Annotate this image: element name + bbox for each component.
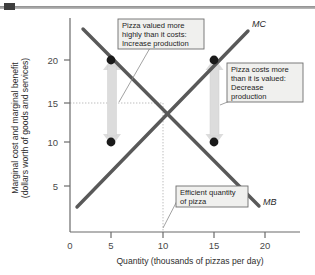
- x-axis-title: Quantity (thousands of pizzas per day): [116, 256, 263, 266]
- callout-decrease-line3: Decrease: [231, 83, 264, 92]
- ytick-label-5: 5: [53, 181, 58, 192]
- xtick-label-5: 5: [108, 240, 113, 251]
- callout-increase-line3: Increase production: [122, 39, 189, 48]
- chart-svg: 20 15 10 5 0 5 10 15 20 Quantity (thousa…: [0, 0, 315, 275]
- point-mc-15-20: [210, 56, 219, 65]
- callout-increase-production: Pizza valued more highly than it costs: …: [118, 19, 204, 49]
- y-axis-title-line2: (dollars worth of goods and services): [20, 58, 30, 199]
- curve-label-mc: MC: [252, 19, 266, 29]
- callout-decrease-line1: Pizza costs more: [231, 65, 289, 74]
- xtick-label-20: 20: [260, 240, 271, 251]
- gap-arrow-left: [103, 58, 121, 146]
- ytick-label-20: 20: [47, 55, 58, 66]
- y-axis-title-line1: Marginal cost and marginal benefit: [10, 62, 20, 194]
- ytick-label-10: 10: [47, 137, 58, 148]
- callout-efficient-quantity: Efficient quantity of pizza: [176, 186, 248, 207]
- ytick-label-15: 15: [47, 98, 58, 109]
- point-mb-5-20: [107, 56, 116, 65]
- figure-container: 20 15 10 5 0 5 10 15 20 Quantity (thousa…: [0, 0, 315, 275]
- callout-decrease-line2: than it is valued:: [231, 74, 286, 83]
- curve-label-mb: MB: [263, 197, 277, 207]
- callout-decrease-production: Pizza costs more than it is valued: Decr…: [227, 63, 303, 102]
- point-mc-5-10: [107, 138, 116, 147]
- callout-efficient-line2: of pizza: [180, 197, 207, 206]
- callout-increase-line1: Pizza valued more: [122, 21, 184, 30]
- xtick-label-0: 0: [67, 240, 72, 251]
- callout-efficient-line1: Efficient quantity: [180, 188, 236, 197]
- xtick-label-10: 10: [158, 240, 169, 251]
- point-mb-15-10: [210, 138, 219, 147]
- callout-decrease-line4: production: [231, 92, 266, 101]
- callout-increase-line2: highly than it costs:: [122, 30, 187, 39]
- xtick-label-15: 15: [209, 240, 220, 251]
- curve-mc: [77, 31, 248, 207]
